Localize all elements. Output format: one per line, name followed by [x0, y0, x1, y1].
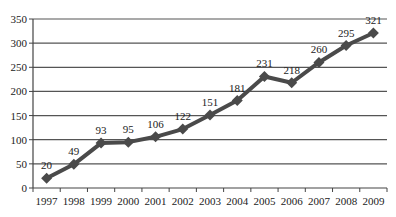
y-tick-label: 0 [22, 182, 28, 194]
y-tick-label: 300 [11, 37, 28, 49]
data-point-label: 231 [256, 57, 273, 69]
x-tick-label: 2005 [253, 195, 276, 207]
data-point-label: 321 [365, 14, 382, 26]
data-point-label: 106 [147, 118, 164, 130]
diamond-marker [123, 137, 134, 148]
x-tick-label: 2003 [199, 195, 222, 207]
line-chart: 050100150200250300350 199719981999200020… [0, 0, 396, 217]
data-point-label: 218 [283, 64, 300, 76]
x-tick-label: 1998 [63, 195, 86, 207]
data-point-label: 295 [338, 27, 355, 39]
y-tick-label: 350 [11, 13, 28, 25]
data-point-label: 49 [68, 145, 80, 157]
x-tick-label: 2007 [308, 195, 331, 207]
x-tick-label: 1997 [36, 195, 59, 207]
y-tick-label: 150 [11, 110, 28, 122]
data-point-label: 181 [229, 82, 246, 94]
data-point-label: 20 [41, 159, 53, 171]
data-point-label: 93 [96, 124, 108, 136]
y-tick-label: 50 [16, 158, 28, 170]
diamond-marker [150, 131, 161, 142]
x-tick-label: 2004 [226, 195, 249, 207]
y-tick-label: 250 [11, 61, 28, 73]
x-tick-label: 2006 [281, 195, 304, 207]
gridlines [33, 19, 387, 164]
data-point-label: 151 [202, 96, 219, 108]
y-axis: 050100150200250300350 [11, 13, 34, 194]
x-tick-label: 2009 [362, 195, 385, 207]
data-point-label: 122 [175, 110, 192, 122]
y-tick-label: 200 [11, 85, 28, 97]
x-tick-label: 2001 [145, 195, 167, 207]
x-tick-label: 1999 [90, 195, 113, 207]
x-axis: 1997199819992000200120022003200420052006… [33, 188, 387, 207]
x-tick-label: 2008 [335, 195, 358, 207]
x-tick-label: 2002 [172, 195, 194, 207]
x-tick-label: 2000 [117, 195, 140, 207]
y-tick-label: 100 [11, 134, 28, 146]
data-point-label: 95 [123, 123, 135, 135]
data-point-label: 260 [311, 43, 328, 55]
